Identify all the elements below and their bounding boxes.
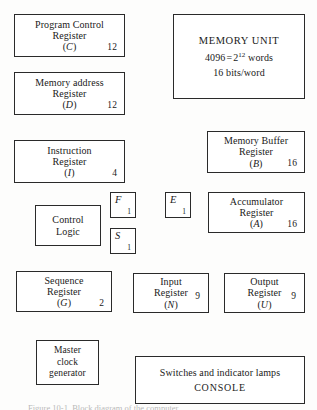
- accumulator-register-block: Accumulator Register ( A ) 16: [208, 192, 305, 233]
- memory-unit-capacity: 4096=212 words: [205, 51, 273, 66]
- input-register-line2: Register: [154, 287, 188, 298]
- flag-register-e-block: E 1: [165, 192, 191, 218]
- sequence-register-line1: Sequence: [44, 275, 83, 286]
- flag-register-e-symbol: E: [170, 194, 176, 205]
- control-logic-line2: Logic: [56, 226, 80, 237]
- instruction-register-line2: Register: [52, 156, 86, 167]
- paren-close: ): [73, 99, 76, 110]
- flag-register-f-width: 1: [127, 207, 131, 216]
- program-control-register-line1: Program Control: [35, 19, 104, 30]
- memory-unit-bits-per-word: 16 bits/word: [213, 66, 264, 81]
- console-line2: CONSOLE: [194, 380, 246, 395]
- sequence-register-block: Sequence Register ( G ) 2: [16, 271, 112, 312]
- console-line1: Switches and indicator lamps: [160, 365, 280, 380]
- master-clock-line3: generator: [49, 368, 86, 380]
- input-register-symbol-line: (N): [164, 299, 178, 310]
- instruction-register-width: 4: [112, 168, 117, 179]
- paren-close: ): [260, 218, 263, 229]
- memory-unit-exponent: 12: [238, 51, 245, 59]
- flag-register-s-symbol: S: [115, 230, 120, 241]
- paren-close: ): [268, 299, 271, 310]
- sequence-register-line2: Register: [47, 286, 81, 297]
- output-register-line1: Output: [250, 276, 278, 287]
- flag-register-e-width: 1: [182, 207, 186, 216]
- memory-address-register-line1: Memory address: [35, 77, 103, 88]
- memory-buffer-register-line1: Memory Buffer: [224, 135, 288, 146]
- console-block: Switches and indicator lamps CONSOLE: [135, 356, 305, 404]
- program-control-register-block: Program Control Register ( C ) 12: [14, 14, 125, 57]
- input-register-width: 9: [195, 291, 200, 302]
- master-clock-line1: Master: [54, 345, 81, 357]
- input-register-block: Input Register (N) 9: [133, 273, 209, 313]
- memory-unit-block: MEMORY UNIT 4096=212 words 16 bits/word: [173, 14, 305, 99]
- master-clock-generator-block: Master clock generator: [36, 340, 99, 385]
- instruction-register-footer: ( I ) 4: [15, 167, 124, 178]
- flag-register-s-width: 1: [127, 243, 131, 252]
- memory-buffer-register-line2: Register: [239, 146, 273, 157]
- flag-register-f-block: F 1: [110, 192, 136, 218]
- instruction-register-line1: Instruction: [47, 145, 91, 156]
- accumulator-register-line1: Accumulator: [230, 196, 283, 207]
- program-control-register-footer: ( C ) 12: [15, 41, 124, 52]
- master-clock-line2: clock: [57, 357, 78, 369]
- memory-address-register-footer: ( D ) 12: [15, 99, 124, 110]
- accumulator-register-line2: Register: [239, 207, 273, 218]
- paren-close: ): [71, 167, 74, 178]
- output-register-symbol-line: (U): [257, 299, 271, 310]
- memory-unit-title: MEMORY UNIT: [199, 33, 280, 48]
- instruction-register-block: Instruction Register ( I ) 4: [14, 140, 125, 183]
- program-control-register-width: 12: [107, 42, 117, 53]
- memory-buffer-register-footer: ( B ) 16: [208, 158, 304, 169]
- figure-caption: Figure 10-1. Block diagram of the comput…: [28, 403, 290, 410]
- sequence-register-symbol: G: [60, 297, 67, 308]
- memory-address-register-width: 12: [107, 100, 117, 111]
- program-control-register-line2: Register: [52, 30, 86, 41]
- memory-address-register-symbol: D: [66, 99, 73, 110]
- control-logic-block: Control Logic: [35, 205, 101, 246]
- computer-block-diagram: Program Control Register ( C ) 12 MEMORY…: [0, 0, 317, 410]
- output-register-width: 9: [291, 291, 296, 302]
- paren-close: ): [68, 297, 71, 308]
- output-register-block: Output Register (U) 9: [224, 273, 305, 313]
- paren-close: ): [73, 41, 76, 52]
- memory-buffer-register-width: 16: [287, 158, 297, 169]
- memory-address-register-block: Memory address Register ( D ) 12: [14, 72, 125, 115]
- input-register-line1: Input: [160, 276, 182, 287]
- memory-unit-words-label: words: [248, 52, 273, 63]
- accumulator-register-width: 16: [287, 219, 297, 230]
- memory-address-register-line2: Register: [52, 88, 86, 99]
- control-logic-line1: Control: [52, 214, 83, 225]
- flag-register-f-symbol: F: [115, 194, 121, 205]
- memory-unit-words-value: 4096: [205, 52, 225, 63]
- accumulator-register-footer: ( A ) 16: [209, 218, 304, 229]
- output-register-line2: Register: [247, 287, 281, 298]
- memory-buffer-register-block: Memory Buffer Register ( B ) 16: [207, 131, 305, 173]
- sequence-register-footer: ( G ) 2: [17, 297, 111, 308]
- memory-unit-equals: =: [225, 52, 233, 63]
- sequence-register-width: 2: [99, 298, 104, 309]
- paren-close: ): [174, 299, 177, 310]
- program-control-register-symbol: C: [66, 41, 73, 52]
- flag-register-s-block: S 1: [110, 228, 136, 254]
- paren-close: ): [259, 158, 262, 169]
